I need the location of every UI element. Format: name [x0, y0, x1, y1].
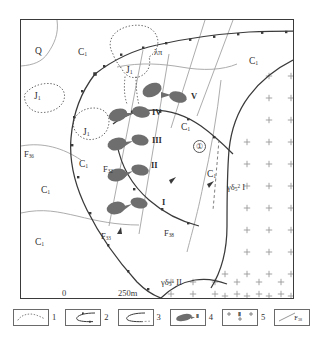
legend-symbol-geologic-boundary-alt — [118, 309, 154, 326]
major-boundaries — [71, 31, 293, 298]
lithologic-contacts — [21, 20, 237, 252]
thrust-ticks — [71, 31, 287, 291]
legend-number-2: 2 — [104, 312, 108, 322]
inferred-contact — [213, 140, 219, 210]
legend-symbol-orebody: Ⅱ — [170, 309, 206, 326]
map-frame: Q C1 J1 J1 J1 C1 C1 C1 — [20, 19, 294, 299]
legend-symbol-geologic-boundary — [65, 309, 101, 326]
fault-arrows — [117, 177, 214, 234]
scale-bar: 0 250m — [62, 288, 160, 299]
legend-item-5: Ⅱ 5 — [222, 309, 265, 326]
map-legend: 1 2 3 — [13, 306, 301, 328]
legend-item-3: 3 — [118, 309, 161, 326]
dotted-outline-areas — [25, 25, 158, 139]
legend-symbol-dotted-outline-area — [13, 309, 49, 326]
legend-symbol-fault: F38 — [274, 309, 310, 326]
legend-item-2: 2 — [65, 309, 108, 326]
scale-label-max: 250m — [118, 288, 137, 298]
granite-crosshatch-field — [168, 73, 293, 298]
legend-number-3: 3 — [157, 312, 161, 322]
legend-number-1: 1 — [52, 312, 56, 322]
legend-item-4: Ⅱ 4 — [170, 309, 213, 326]
legend-item-6: F38 6 — [274, 309, 313, 326]
ore-bodies — [105, 80, 188, 216]
map-linework — [21, 20, 293, 298]
legend-number-5: 5 — [261, 312, 265, 322]
legend-number-4: 4 — [209, 312, 213, 322]
legend-item-1: 1 — [13, 309, 56, 326]
scale-label-min: 0 — [62, 288, 66, 298]
legend-symbol-granite: Ⅱ — [222, 309, 258, 326]
geological-map-figure: Q C1 J1 J1 J1 C1 C1 C1 — [0, 0, 313, 338]
